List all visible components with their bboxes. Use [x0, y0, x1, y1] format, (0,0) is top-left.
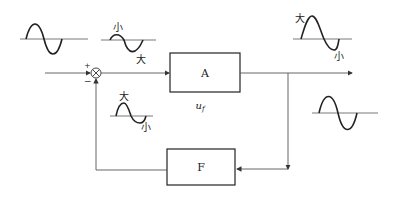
feedback-diagram: 小 大 + − A uf 大 小 F 大	[0, 0, 394, 201]
plus-sign: +	[84, 61, 91, 70]
amplifier-block: A	[170, 53, 240, 92]
feedback-label: F	[197, 161, 205, 174]
label-big: 大	[136, 53, 146, 65]
amplifier-label: A	[200, 67, 210, 80]
feedback-return-arrow	[96, 79, 167, 170]
corrected-output-waveform	[312, 97, 378, 130]
label-small: 小	[113, 22, 123, 33]
distorted-output-waveform: 大 小	[293, 12, 352, 62]
summing-junction	[91, 68, 101, 78]
label-small: 小	[334, 51, 344, 62]
feedback-waveform: 大 小	[110, 90, 153, 133]
feedback-block: F	[167, 149, 235, 185]
label-big: 大	[119, 90, 129, 102]
label-small: 小	[141, 122, 151, 133]
signal-label: uf	[195, 100, 205, 113]
label-big: 大	[295, 12, 305, 24]
input-waveform	[20, 24, 88, 54]
predistorted-waveform: 小 大	[101, 22, 156, 65]
minus-sign: −	[84, 76, 92, 86]
